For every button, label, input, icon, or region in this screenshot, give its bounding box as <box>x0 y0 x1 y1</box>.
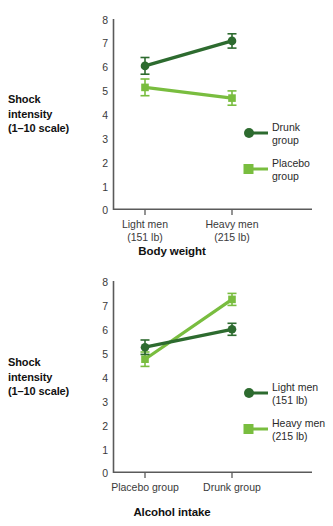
data-point-marker <box>228 37 237 46</box>
x-axis-title: Alcohol intake <box>22 506 322 518</box>
legend-label-line1: Drunk <box>272 121 300 133</box>
legend-label-line2: (215 lb) <box>272 430 325 443</box>
legend-marker-square-icon <box>243 163 269 175</box>
legend-label-line2: group <box>272 170 310 183</box>
x-category-1: Placebo group <box>100 481 190 494</box>
body-weight-chart: Shock intensity (1–10 scale) 8 7 6 5 4 3… <box>0 0 333 263</box>
x-category-1: Light men (151 lb) <box>100 218 190 243</box>
x-category-2-line1: Heavy men <box>187 218 277 231</box>
data-point-marker <box>228 296 236 304</box>
legend-marker-circle-icon <box>243 387 269 399</box>
x-category-2-line2: (215 lb) <box>187 231 277 244</box>
x-category-1-line1: Light men <box>100 218 190 231</box>
x-category-1-line1: Placebo group <box>100 481 190 494</box>
legend-marker-circle-icon <box>243 127 269 139</box>
legend-marker-square-icon <box>243 423 269 435</box>
legend-label-placebo-group: Placebo group <box>272 157 310 182</box>
legend-label-line1: Heavy men <box>272 417 325 429</box>
legend-label-heavy-men: Heavy men (215 lb) <box>272 417 325 442</box>
x-axis-title: Body weight <box>22 245 322 257</box>
data-point-marker <box>141 355 149 363</box>
legend-label-light-men: Light men (151 lb) <box>272 381 318 406</box>
alcohol-intake-chart: Shock intensity (1–10 scale) 8 7 6 5 4 3… <box>0 263 333 526</box>
legend-label-drunk-group: Drunk group <box>272 121 300 146</box>
legend-label-line2: group <box>272 134 300 147</box>
data-point-marker <box>141 343 150 352</box>
x-category-2: Heavy men (215 lb) <box>187 218 277 243</box>
data-point-marker <box>141 84 149 92</box>
data-point-marker <box>228 94 236 102</box>
legend-label-line1: Light men <box>272 381 318 393</box>
series-drunk-group <box>141 34 237 74</box>
x-category-2-line1: Drunk group <box>187 481 277 494</box>
data-point-marker <box>228 325 237 334</box>
legend-label-line2: (151 lb) <box>272 394 318 407</box>
legend-label-line1: Placebo <box>272 157 310 169</box>
x-category-1-line2: (151 lb) <box>100 231 190 244</box>
data-point-marker <box>141 62 150 71</box>
x-category-2: Drunk group <box>187 481 277 494</box>
series-placebo-group <box>141 79 237 105</box>
